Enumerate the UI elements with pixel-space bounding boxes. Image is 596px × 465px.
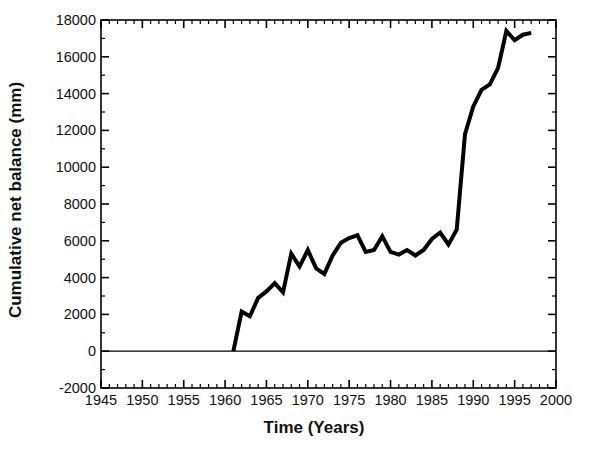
data-line-cumulative-net-balance	[233, 31, 531, 351]
chart-figure: Cumulative net balance (mm) -20000200040…	[0, 0, 596, 465]
plot-area	[0, 0, 596, 465]
minor-ticks	[101, 20, 556, 388]
axes-frame	[101, 20, 556, 388]
x-axis-title: Time (Years)	[0, 418, 596, 438]
x-axis-title-text: Time (Years)	[264, 418, 365, 438]
major-ticks	[101, 20, 556, 388]
